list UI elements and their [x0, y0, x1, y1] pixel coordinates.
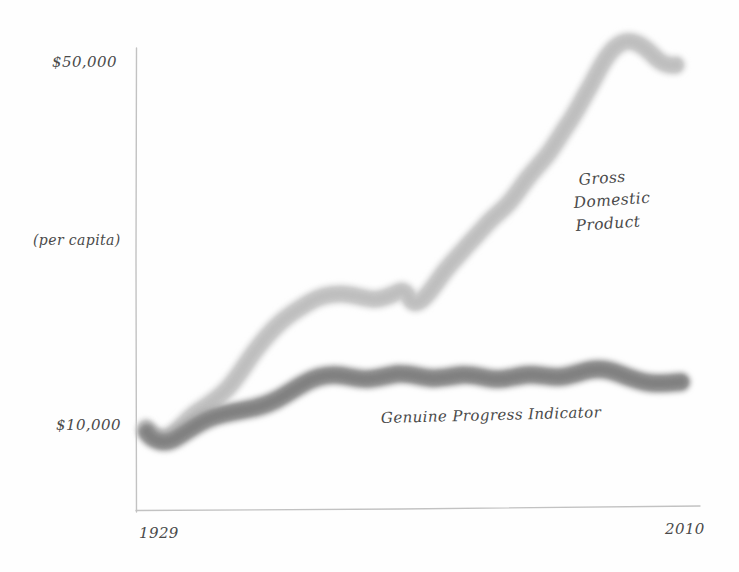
x-axis-line [136, 506, 700, 511]
chart-figure: $50,000 $10,000 (per capita) 1929 2010 G… [0, 0, 739, 572]
gdp-series-label: Gross Domestic Product [572, 168, 651, 235]
x-axis-tick-right: 2010 [664, 520, 705, 538]
gdp-series-label-line-2: Domestic [572, 189, 651, 212]
x-axis-tick-left: 1929 [139, 524, 179, 542]
y-axis-tick-bottom: $10,000 [56, 416, 121, 434]
axis-group [136, 48, 700, 512]
y-axis-tick-top: $50,000 [52, 53, 117, 71]
gdp-series-label-line-1: Gross [578, 168, 626, 189]
gpi-series-label: Genuine Progress Indicator [381, 403, 602, 427]
gdp-series-label-line-3: Product [574, 212, 641, 235]
y-axis-caption: (per capita) [33, 232, 121, 248]
chart-canvas: $50,000 $10,000 (per capita) 1929 2010 G… [0, 0, 739, 572]
y-axis-line [136, 48, 137, 512]
